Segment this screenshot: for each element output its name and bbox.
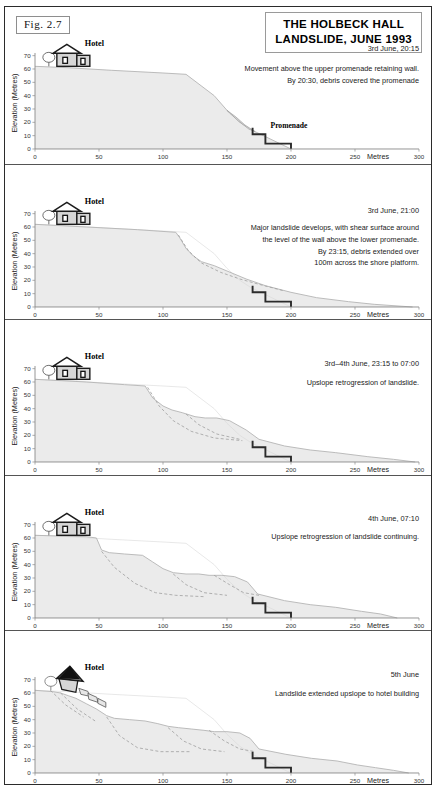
cross-section-chart: Hotel 050100150200250300010203040506070 …	[5, 631, 431, 786]
svg-text:50: 50	[24, 547, 31, 554]
svg-text:50: 50	[96, 466, 103, 473]
svg-text:70: 70	[24, 365, 31, 372]
panel-4: Hotel 050100150200250300010203040506070 …	[5, 476, 431, 631]
y-axis-title: Elevation (Metres)	[10, 231, 19, 290]
svg-text:40: 40	[24, 561, 31, 568]
svg-text:150: 150	[222, 153, 233, 160]
hotel-group: Hotel	[43, 508, 105, 535]
tree-icon	[43, 521, 55, 535]
svg-text:0: 0	[33, 777, 37, 784]
svg-text:50: 50	[96, 153, 103, 160]
cross-section-chart: Hotel 050100150200250300010203040506070 …	[5, 476, 431, 631]
svg-text:250: 250	[350, 466, 361, 473]
hotel-label: Hotel	[85, 197, 105, 206]
svg-text:70: 70	[24, 52, 31, 59]
panel-note-text: Landslide extended upslope to hotel buil…	[275, 688, 419, 700]
svg-text:200: 200	[286, 153, 297, 160]
svg-text:300: 300	[414, 153, 425, 160]
panel-note-text: Movement above the upper promenade retai…	[245, 63, 419, 87]
x-axis-unit-label: Metres	[367, 466, 389, 475]
svg-text:40: 40	[24, 405, 31, 412]
svg-text:10: 10	[24, 756, 31, 763]
svg-text:30: 30	[24, 574, 31, 581]
hotel-label: Hotel	[85, 39, 105, 48]
slope-fill	[35, 380, 415, 463]
hotel-label: Hotel	[85, 353, 105, 362]
svg-text:50: 50	[96, 621, 103, 628]
svg-text:20: 20	[24, 432, 31, 439]
svg-text:30: 30	[24, 105, 31, 112]
svg-text:250: 250	[350, 777, 361, 784]
svg-text:200: 200	[286, 311, 297, 318]
svg-text:300: 300	[414, 777, 425, 784]
tree-icon	[45, 677, 57, 691]
svg-text:60: 60	[24, 378, 31, 385]
svg-text:30: 30	[24, 418, 31, 425]
svg-text:0: 0	[33, 621, 37, 628]
svg-text:40: 40	[24, 250, 31, 257]
hotel-label: Hotel	[85, 508, 105, 517]
svg-text:50: 50	[96, 311, 103, 318]
svg-text:150: 150	[222, 777, 233, 784]
svg-text:20: 20	[24, 587, 31, 594]
svg-text:200: 200	[286, 466, 297, 473]
svg-text:0: 0	[27, 458, 31, 465]
panel-2: Hotel 050100150200250300010203040506070 …	[5, 165, 431, 320]
cross-section-chart: Hotel 050100150200250300010203040506070 …	[5, 320, 431, 475]
svg-text:10: 10	[24, 445, 31, 452]
svg-text:300: 300	[414, 466, 425, 473]
svg-text:150: 150	[222, 621, 233, 628]
tree-icon	[43, 366, 55, 380]
svg-text:0: 0	[27, 614, 31, 621]
panel-date-label: 3rd June, 21:00	[368, 206, 419, 215]
svg-text:60: 60	[24, 223, 31, 230]
panel-date-label: 4th June, 07:10	[368, 514, 419, 523]
svg-text:70: 70	[24, 676, 31, 683]
svg-text:60: 60	[24, 65, 31, 72]
svg-text:250: 250	[350, 311, 361, 318]
svg-text:0: 0	[27, 145, 31, 152]
svg-text:20: 20	[24, 743, 31, 750]
svg-text:50: 50	[24, 703, 31, 710]
svg-text:50: 50	[96, 777, 103, 784]
svg-text:30: 30	[24, 263, 31, 270]
svg-text:10: 10	[24, 132, 31, 139]
panel-note-text: Upslope retrogression of landslide conti…	[271, 531, 419, 543]
panel-5: Hotel 050100150200250300010203040506070 …	[5, 631, 431, 786]
svg-text:70: 70	[24, 210, 31, 217]
svg-text:150: 150	[222, 311, 233, 318]
svg-text:60: 60	[24, 689, 31, 696]
svg-text:200: 200	[286, 777, 297, 784]
svg-text:0: 0	[33, 311, 37, 318]
x-axis-unit-label: Metres	[367, 777, 389, 786]
y-axis-title: Elevation (Metres)	[10, 698, 19, 757]
tree-icon	[43, 52, 55, 66]
promenade-label: Promenade	[271, 121, 309, 130]
figure-root: Fig. 2.7 THE HOLBECK HALL LANDSLIDE, JUN…	[0, 0, 436, 790]
svg-text:20: 20	[24, 276, 31, 283]
hotel-label: Hotel	[85, 664, 105, 673]
x-axis-unit-label: Metres	[367, 310, 389, 319]
svg-text:0: 0	[27, 769, 31, 776]
y-axis-title: Elevation (Metres)	[10, 73, 19, 132]
y-axis-title: Elevation (Metres)	[10, 387, 19, 446]
panel-3: Hotel 050100150200250300010203040506070 …	[5, 320, 431, 475]
hotel-group: Hotel	[43, 353, 105, 380]
svg-text:300: 300	[414, 311, 425, 318]
panel-date-label: 3rd June, 20:15	[368, 44, 419, 53]
panel-1: Promenade Hotel 050100150200250300010203…	[5, 7, 431, 165]
svg-text:30: 30	[24, 729, 31, 736]
svg-text:20: 20	[24, 118, 31, 125]
tree-icon	[43, 210, 55, 224]
svg-text:100: 100	[158, 153, 169, 160]
svg-text:50: 50	[24, 392, 31, 399]
plot-area	[35, 380, 415, 463]
plot-area	[35, 535, 397, 618]
svg-text:200: 200	[286, 621, 297, 628]
panel-date-label: 5th June	[391, 670, 419, 679]
x-axis-unit-label: Metres	[367, 152, 389, 161]
y-axis-title: Elevation (Metres)	[10, 542, 19, 601]
svg-text:50: 50	[24, 236, 31, 243]
svg-text:70: 70	[24, 521, 31, 528]
svg-text:100: 100	[158, 621, 169, 628]
